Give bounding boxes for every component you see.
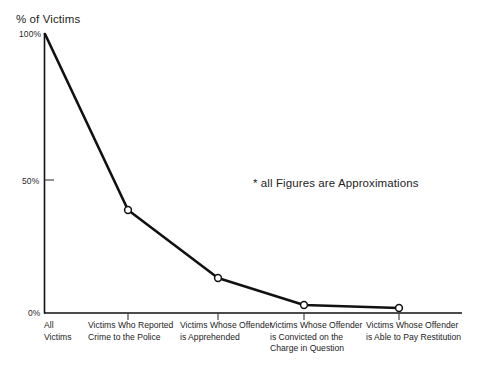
y-tick-label-100: 100% xyxy=(19,28,41,40)
y-tick-label-0: 0% xyxy=(28,307,41,319)
data-point-marker xyxy=(215,275,222,282)
data-line xyxy=(45,34,399,308)
x-axis-label-offender-convicted: Victims Whose Offender is Convicted on t… xyxy=(270,320,362,355)
x-axis-label-reported-to-police: Victims Who Reported Crime to the Police xyxy=(88,320,173,343)
y-tick-label-50: 50% xyxy=(22,175,39,187)
data-point-marker xyxy=(125,207,132,214)
y-axis-title: % of Victims xyxy=(16,13,80,25)
x-axis-label-able-to-pay-restitution: Victims Whose Offender is Able to Pay Re… xyxy=(366,320,461,343)
chart-annotation-footnote: * all Figures are Approximations xyxy=(253,177,419,189)
data-point-marker xyxy=(301,302,308,309)
chart-page: % of Victims 100% 50% 0% * all Figures a… xyxy=(0,0,480,370)
data-point-marker xyxy=(396,305,403,312)
x-axis-label-all-victims: All Victims xyxy=(44,320,72,343)
x-axis-label-offender-apprehended: Victims Whose Offender is Apprehended xyxy=(180,320,272,343)
